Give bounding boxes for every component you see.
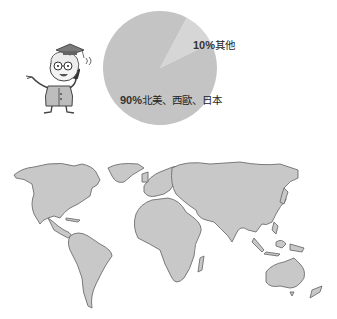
- slice-label-developed: 90%北美、西歐、日本: [120, 92, 222, 107]
- world-map: [0, 160, 337, 319]
- slice-pct-other: 10%: [193, 39, 215, 51]
- slice-text-developed: 北美、西歐、日本: [142, 94, 222, 106]
- uk: [142, 172, 148, 182]
- caribbean: [66, 218, 80, 222]
- tasmania: [290, 292, 294, 296]
- new-zealand: [310, 286, 322, 298]
- australia: [266, 258, 305, 288]
- professor-character-icon: [20, 34, 110, 114]
- philippines: [272, 222, 278, 234]
- slice-text-other: 其他: [215, 39, 235, 51]
- madagascar: [198, 256, 204, 272]
- figure: 10%其他 90%北美、西歐、日本: [0, 0, 337, 319]
- indonesia: [252, 238, 304, 256]
- south-america: [68, 233, 112, 308]
- central-america: [48, 218, 72, 238]
- slice-pct-developed: 90%: [120, 94, 142, 106]
- greenland: [108, 164, 144, 183]
- slice-label-other: 10%其他: [193, 37, 235, 52]
- north-america: [14, 163, 100, 224]
- africa: [134, 198, 201, 282]
